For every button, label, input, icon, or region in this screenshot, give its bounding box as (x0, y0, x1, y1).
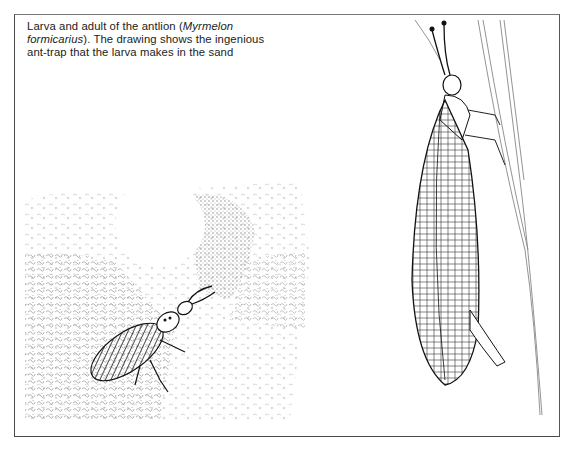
sand-pit-scene (25, 180, 310, 420)
illustration-canvas (0, 0, 575, 450)
adult-antlion-illustration (412, 21, 505, 386)
